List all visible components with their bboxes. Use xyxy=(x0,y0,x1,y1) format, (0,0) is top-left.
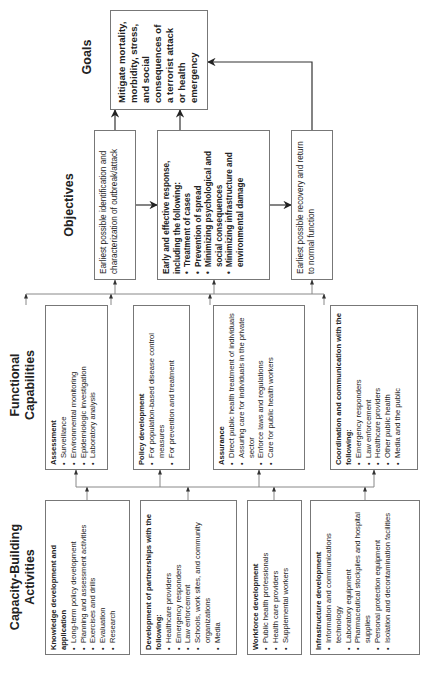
list-item: Epidemiologic investigation xyxy=(79,310,89,465)
list-item: Healthcare providers xyxy=(164,505,174,650)
goal-text: Mitigate mortality, morbidity, stress, a… xyxy=(116,22,199,103)
list-item: Emergency responders xyxy=(174,505,184,650)
functional-to-objectives-connectors xyxy=(26,280,324,305)
list-item: Law enforcement xyxy=(183,505,193,650)
header-capacity-building: Capacity-Building Activities xyxy=(8,517,38,637)
list-item: Surveillance xyxy=(59,310,69,465)
header-functional-capabilities: Functional Capabilities xyxy=(8,325,38,445)
box-list: Surveillance Environmental monitoring Ep… xyxy=(59,310,98,465)
objective-text: Earliest possible identification and cha… xyxy=(99,149,119,274)
list-item: Law enforcement xyxy=(364,310,374,465)
box-title: Policy development xyxy=(137,310,147,465)
list-item: Isolation and decontamination facilities xyxy=(383,505,393,650)
header-goals: Goals xyxy=(80,17,95,97)
list-item: Pharmaceutical stockpiles and hospital s… xyxy=(353,505,373,650)
objective-identification: Earliest possible identification and cha… xyxy=(94,130,136,280)
box-list: Emergency responders Law enforcement Hea… xyxy=(354,310,403,465)
box-list: Healthcare providers Emergency responder… xyxy=(164,505,223,650)
box-title: Assessment xyxy=(49,310,59,465)
list-item: Public health professionals xyxy=(261,505,271,650)
list-item: Prevention of spread xyxy=(194,136,205,274)
list-item: Environmental monitoring xyxy=(69,310,79,465)
list-item: Personal protection equipment xyxy=(373,505,383,650)
list-item: Long-term policy development xyxy=(69,505,79,650)
list-item: Laboratory equipment xyxy=(344,505,354,650)
functional-assessment: Assessment Surveillance Environmental mo… xyxy=(45,305,108,470)
capacity-workforce-development: Workforce development Public health prof… xyxy=(247,500,302,655)
goal-box: Mitigate mortality, morbidity, stress, a… xyxy=(110,10,208,110)
list-item: Emergency responders xyxy=(354,310,364,465)
functional-policy-development: Policy development For population-based … xyxy=(133,305,190,470)
box-title: Assurance xyxy=(217,310,227,465)
list-item: Direct public health treatment of indivi… xyxy=(227,310,237,465)
box-title: Coordination and communication with the … xyxy=(334,310,354,465)
list-item: Care for public health workers xyxy=(266,310,276,465)
list-item: Healthcare providers xyxy=(373,310,383,465)
diagram-canvas: Capacity-Building Activities Functional … xyxy=(0,0,435,677)
objective-text: Early and effective response, including … xyxy=(162,136,183,274)
list-item: Health care providers xyxy=(271,505,281,650)
list-item: Exercises and drills xyxy=(88,505,98,650)
objective-list: Treatment of cases Prevention of spread … xyxy=(183,136,246,274)
list-item: Media xyxy=(213,505,223,650)
capacity-knowledge-development: Knowledge development and application Lo… xyxy=(45,500,130,655)
capacity-to-functional-connectors xyxy=(76,470,374,500)
box-list: Public health professionals Health care … xyxy=(261,505,291,650)
list-item: Media and the public xyxy=(393,310,403,465)
capacity-infrastructure-development: Infrastructure development Information a… xyxy=(310,500,420,655)
box-title: Workforce development xyxy=(251,505,261,650)
box-title: Infrastructure development xyxy=(314,505,324,650)
box-list: Information and communications technolog… xyxy=(324,505,393,650)
list-item: Treatment of cases xyxy=(183,136,194,274)
list-item: Planning and assessment activities xyxy=(79,505,89,650)
list-item: For prevention and treatment xyxy=(167,310,177,465)
list-item: Assuring care for individuals in the pri… xyxy=(237,310,257,465)
objective-recovery: Earliest possible recovery and return to… xyxy=(291,130,333,280)
functional-assurance: Assurance Direct public health treatment… xyxy=(213,305,305,470)
list-item: Schools, work sites, and community organ… xyxy=(193,505,213,650)
objective-text: Earliest possible recovery and return to… xyxy=(296,141,316,274)
list-item: Other public health xyxy=(383,310,393,465)
list-item: Enforce laws and regulations xyxy=(256,310,266,465)
box-title: Development of partnerships with the fol… xyxy=(144,505,164,650)
list-item: Laboratory analysis xyxy=(88,310,98,465)
list-item: Minimizing psychological and social cons… xyxy=(204,136,225,274)
box-list: Long-term policy development Planning an… xyxy=(69,505,118,650)
list-item: Supplemental workers xyxy=(281,505,291,650)
list-item: Minimizing infrastructure and environmen… xyxy=(225,136,246,274)
box-list: For population-based disease control mea… xyxy=(147,310,177,465)
list-item: Research xyxy=(108,505,118,650)
box-list: Direct public health treatment of indivi… xyxy=(227,310,276,465)
header-objectives: Objectives xyxy=(62,155,77,255)
list-item: For population-based disease control mea… xyxy=(147,310,167,465)
list-item: Evaluation xyxy=(98,505,108,650)
capacity-partnerships: Development of partnerships with the fol… xyxy=(140,500,237,655)
functional-coordination: Coordination and communication with the … xyxy=(330,305,418,470)
list-item: Information and communications technolog… xyxy=(324,505,344,650)
box-title: Knowledge development and application xyxy=(49,505,69,650)
objective-response: Early and effective response, including … xyxy=(157,130,270,280)
